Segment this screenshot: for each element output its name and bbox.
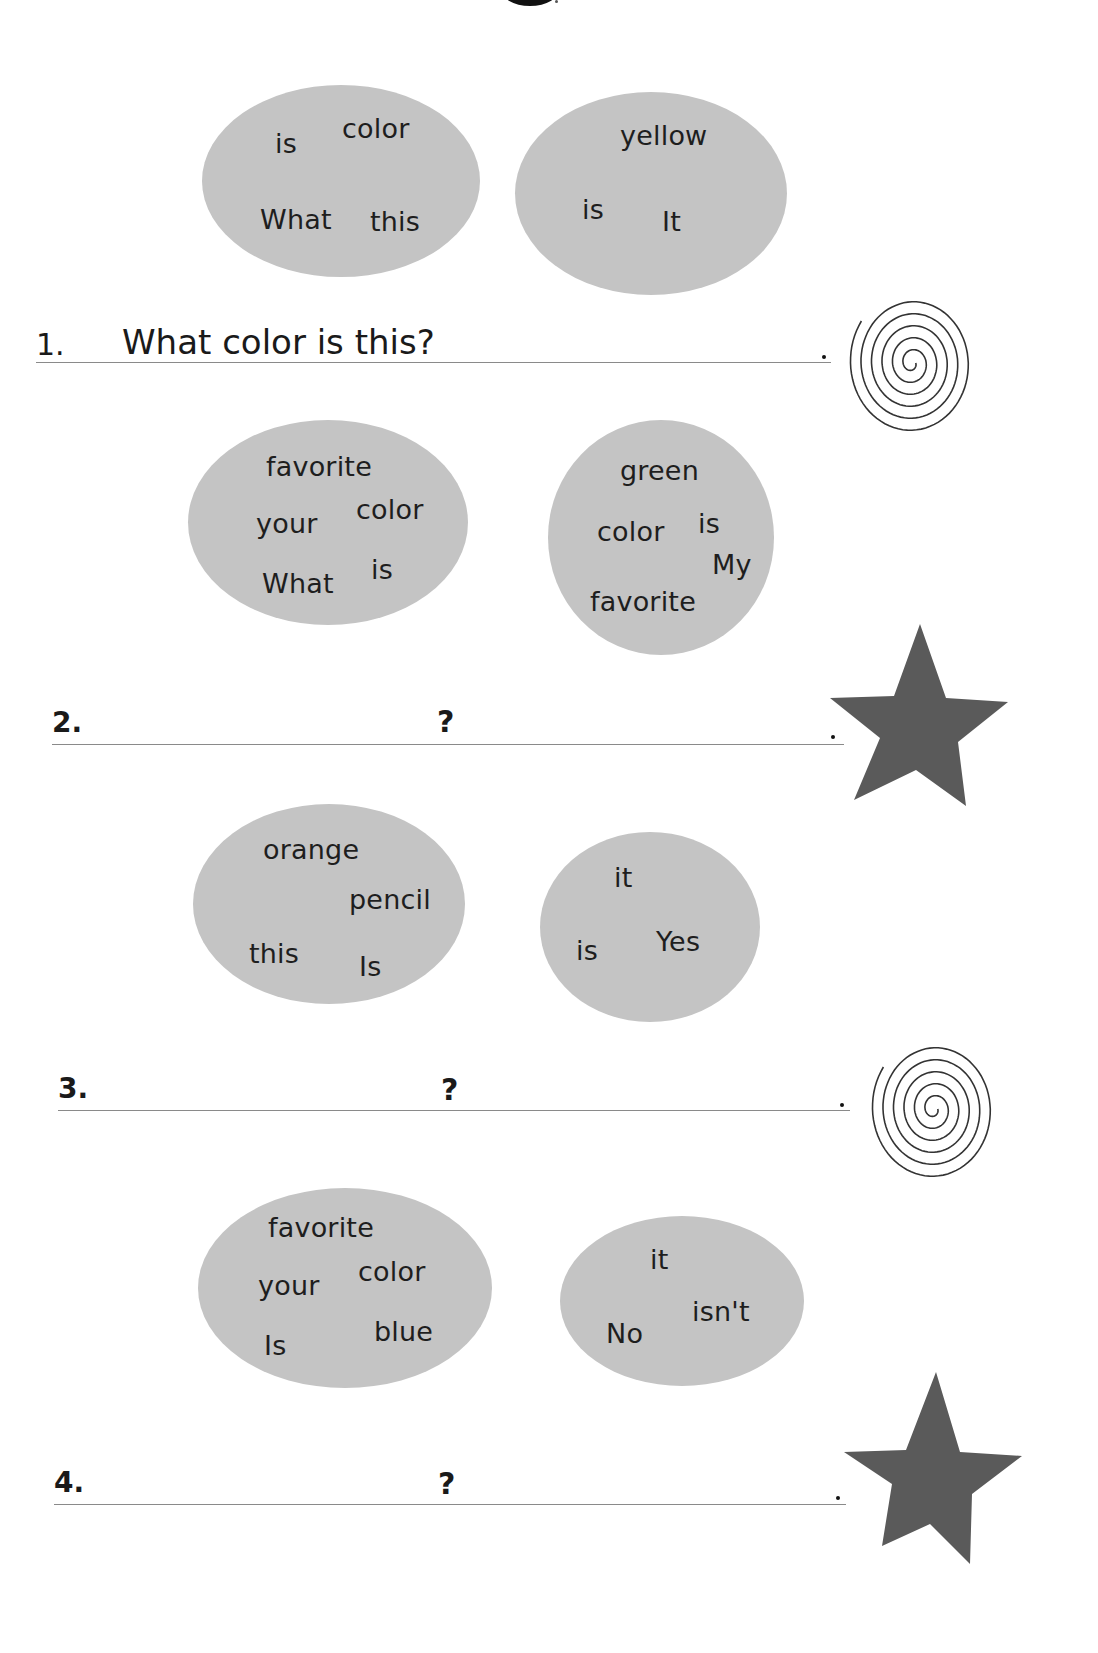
word-chip[interactable]: favorite xyxy=(268,1212,374,1243)
answer-word-bubble xyxy=(560,1216,804,1386)
answer-line[interactable] xyxy=(36,362,831,363)
exercise-number: 3. xyxy=(58,1072,88,1105)
question-word-bubble xyxy=(202,85,480,277)
question-mark: ? xyxy=(438,1466,455,1501)
question-mark: ? xyxy=(441,1072,458,1107)
word-chip[interactable]: this xyxy=(370,206,420,237)
star-icon xyxy=(828,622,1010,808)
spiral-icon xyxy=(862,1034,1007,1184)
exercise-number: 2. xyxy=(52,706,82,739)
word-chip[interactable]: No xyxy=(606,1318,643,1349)
word-chip[interactable]: Yes xyxy=(656,926,700,957)
exercise-number: 1. xyxy=(36,327,65,362)
sentence-period xyxy=(840,1103,844,1107)
word-chip[interactable]: favorite xyxy=(590,586,696,617)
word-chip[interactable]: is xyxy=(275,128,297,159)
word-chip[interactable]: it xyxy=(650,1244,669,1275)
word-chip[interactable]: is xyxy=(582,194,604,225)
word-chip[interactable]: color xyxy=(342,113,410,144)
question-mark: ? xyxy=(437,704,454,739)
word-chip[interactable]: isn't xyxy=(692,1296,750,1327)
word-chip[interactable]: My xyxy=(712,549,752,580)
word-chip[interactable]: it xyxy=(614,862,633,893)
word-chip[interactable]: It xyxy=(662,206,681,237)
word-chip[interactable]: green xyxy=(620,455,699,486)
title-fragment-dot xyxy=(555,0,558,3)
word-chip[interactable]: Is xyxy=(359,951,381,982)
sentence-period xyxy=(822,355,826,359)
answer-word-bubble xyxy=(540,832,760,1022)
spiral-icon xyxy=(840,288,985,438)
word-chip[interactable]: yellow xyxy=(620,120,707,151)
word-chip[interactable]: is xyxy=(576,935,598,966)
word-chip[interactable]: your xyxy=(258,1270,320,1301)
word-chip[interactable]: pencil xyxy=(349,884,431,915)
answer-text[interactable]: What color is this? xyxy=(122,322,435,362)
word-chip[interactable]: Is xyxy=(264,1330,286,1361)
word-chip[interactable]: color xyxy=(356,494,424,525)
title-fragment xyxy=(500,0,560,6)
sentence-period xyxy=(836,1496,840,1500)
exercise-number: 4. xyxy=(54,1466,84,1499)
word-chip[interactable]: What xyxy=(260,204,332,235)
word-chip[interactable]: color xyxy=(358,1256,426,1287)
word-chip[interactable]: your xyxy=(256,508,318,539)
word-chip[interactable]: color xyxy=(597,516,665,547)
word-chip[interactable]: is xyxy=(698,508,720,539)
word-chip[interactable]: this xyxy=(249,938,299,969)
word-chip[interactable]: blue xyxy=(374,1316,433,1347)
word-chip[interactable]: is xyxy=(371,554,393,585)
word-chip[interactable]: favorite xyxy=(266,451,372,482)
answer-line[interactable] xyxy=(54,1504,846,1505)
answer-line[interactable] xyxy=(58,1110,850,1111)
word-chip[interactable]: What xyxy=(262,568,334,599)
word-chip[interactable]: orange xyxy=(263,834,359,865)
star-icon xyxy=(842,1370,1024,1566)
answer-line[interactable] xyxy=(52,744,844,745)
